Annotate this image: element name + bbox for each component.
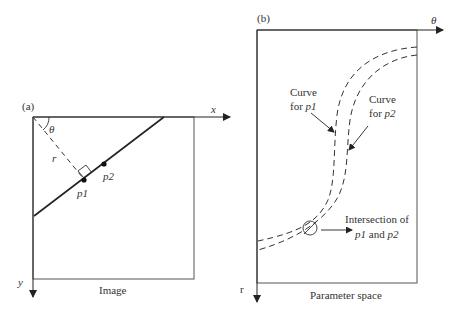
r-axis-label: r	[240, 283, 244, 295]
curve-p1-label-line2: for p1	[290, 100, 317, 112]
p2-label: p2	[102, 170, 115, 182]
parameter-frame	[257, 30, 417, 283]
r-label: r	[52, 152, 57, 164]
y-axis-label: y	[17, 276, 23, 288]
x-axis-label: x	[210, 103, 216, 115]
panel-b-label: (b)	[257, 12, 270, 25]
point-p1	[81, 177, 86, 182]
right-angle-marker	[78, 165, 92, 173]
hough-transform-diagram: (a) x y r θ p1 p2 Image (b) θ	[0, 0, 464, 314]
curve-p1-pointer	[311, 113, 334, 132]
panel-a-label: (a)	[22, 100, 35, 113]
curve-p1-label-line1: Curve	[290, 86, 317, 98]
curve-p2-label-line2: for p2	[369, 107, 396, 119]
normal-distance-r	[33, 117, 83, 178]
p1-label: p1	[76, 187, 88, 199]
image-caption: Image	[99, 284, 127, 296]
point-p2	[101, 161, 106, 166]
theta-label: θ	[49, 123, 55, 135]
panel-b-parameter-space: (b) θ r Curve for p1 Curve for p2 Inters…	[240, 12, 443, 302]
curve-p2-pointer	[349, 126, 368, 150]
curve-p2-label-line1: Curve	[369, 93, 396, 105]
intersection-label-line2: p1 and p2	[354, 228, 399, 240]
curve-p1	[258, 47, 417, 241]
theta-axis-label: θ	[431, 14, 437, 26]
intersection-label-line1: Intersection of	[345, 213, 409, 225]
panel-a-image-space: (a) x y r θ p1 p2 Image	[17, 100, 230, 297]
parameter-space-caption: Parameter space	[310, 289, 382, 301]
